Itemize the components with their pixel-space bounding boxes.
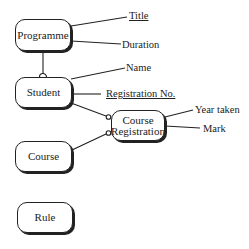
- attribute-mark: Mark: [203, 123, 226, 134]
- entity-rule: Rule: [17, 202, 73, 233]
- attribute-registration-no: Registration No.: [106, 88, 175, 99]
- entity-label: Student: [27, 87, 61, 98]
- entity-course-registration: Course Registration: [111, 110, 165, 141]
- entity-label: Course: [28, 151, 59, 162]
- attribute-title: Title: [129, 10, 148, 21]
- attribute-name: Name: [126, 62, 151, 73]
- entity-student: Student: [15, 77, 72, 108]
- entity-label-line2: Registration: [111, 126, 165, 137]
- attribute-duration: Duration: [122, 39, 159, 50]
- entity-label: Programme: [17, 30, 68, 41]
- attribute-year-taken: Year taken: [195, 104, 240, 115]
- entity-course: Course: [15, 141, 72, 172]
- entity-label: Rule: [35, 212, 56, 223]
- entity-programme: Programme: [15, 19, 71, 51]
- entity-label-line1: Course: [122, 115, 153, 126]
